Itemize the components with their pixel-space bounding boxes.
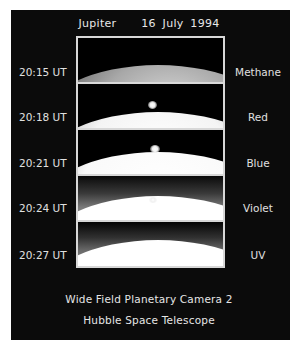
frame-red (78, 84, 223, 128)
jupiter-limb (78, 65, 223, 82)
time-label: 20:24 UT (19, 202, 67, 214)
jupiter-limb (78, 112, 223, 128)
time-label: 20:21 UT (19, 157, 67, 169)
caption-instrument: Wide Field Planetary Camera 2 (0, 293, 298, 305)
caption-telescope: Hubble Space Telescope (0, 314, 298, 326)
time-label: 20:18 UT (19, 111, 67, 123)
frame-uv (78, 222, 223, 266)
impact-spot (148, 101, 157, 109)
frame-methane (78, 38, 223, 82)
frame-blue (78, 130, 223, 174)
figure-title: Jupiter 16 July 1994 (0, 17, 298, 30)
filter-label: UV (226, 249, 290, 261)
title-date: 16 July 1994 (141, 17, 219, 30)
time-label: 20:15 UT (19, 66, 67, 78)
impact-spot (149, 197, 157, 203)
impact-spot (150, 145, 160, 153)
title-subject: Jupiter (78, 17, 116, 30)
filter-label: Blue (226, 157, 290, 169)
time-label: 20:27 UT (19, 249, 67, 261)
frame-violet (78, 176, 223, 220)
image-sequence-frame (76, 36, 225, 268)
filter-label: Violet (226, 202, 290, 214)
filter-label: Red (226, 111, 290, 123)
jupiter-limb (78, 152, 223, 174)
filter-label: Methane (226, 66, 290, 78)
